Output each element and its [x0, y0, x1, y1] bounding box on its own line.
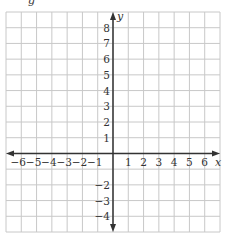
x-tick-label: −2 [72, 156, 87, 168]
x-tick-label: −5 [26, 156, 41, 168]
x-axis-label: x [215, 156, 222, 169]
coordinate-plane: gyx−6−5−4−3−2−112345687654321−2−3−4 [0, 0, 226, 243]
y-tick-label: −3 [95, 195, 110, 207]
x-tick-label: 4 [171, 156, 178, 168]
x-tick-label: 5 [186, 156, 193, 168]
x-tick-label: −6 [11, 156, 27, 168]
x-tick-label: 3 [156, 156, 163, 168]
x-tick-label: 6 [201, 156, 208, 168]
y-tick-label: −2 [95, 179, 110, 191]
x-tick-label: 2 [140, 156, 147, 168]
y-tick-label: 5 [103, 69, 110, 81]
x-tick-label: 1 [125, 156, 132, 168]
y-tick-label: 7 [103, 37, 110, 49]
cropped-label: g [28, 0, 35, 7]
x-tick-label: −4 [41, 156, 57, 168]
x-tick-label: −3 [56, 156, 71, 168]
y-tick-label: −4 [95, 210, 111, 222]
y-tick-label: 8 [103, 22, 110, 34]
x-tick-label: −1 [87, 156, 102, 168]
y-tick-label: 6 [103, 53, 110, 65]
y-axis-down-arrow-icon [110, 224, 116, 232]
y-tick-label: 3 [103, 100, 110, 112]
y-tick-label: 4 [103, 85, 110, 97]
y-tick-label: 2 [103, 116, 110, 128]
y-axis-label: y [116, 10, 124, 23]
y-axis-up-arrow-icon [110, 12, 116, 20]
y-tick-label: 1 [103, 132, 110, 144]
